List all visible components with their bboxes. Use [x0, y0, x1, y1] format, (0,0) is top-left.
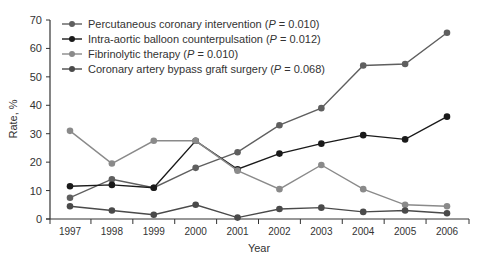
data-point	[234, 167, 241, 174]
data-point	[276, 122, 283, 129]
data-point	[402, 201, 409, 208]
data-point	[360, 132, 367, 139]
data-point	[402, 61, 409, 68]
data-point	[318, 204, 325, 211]
data-point	[150, 211, 157, 218]
data-point	[109, 182, 116, 189]
y-tick-label: 70	[30, 14, 42, 26]
x-tick-label: 2004	[352, 226, 375, 237]
legend-item: Percutaneous coronary intervention (P = …	[62, 18, 319, 30]
data-point	[276, 206, 283, 213]
line-chart: 0102030405060701997199819992000200120022…	[0, 0, 483, 270]
y-tick-label: 60	[30, 42, 42, 54]
data-point	[109, 207, 116, 214]
x-tick-label: 2006	[436, 226, 459, 237]
data-point	[150, 138, 157, 145]
data-point	[67, 128, 74, 135]
x-tick-label: 2001	[226, 226, 249, 237]
data-point	[444, 113, 451, 120]
y-axis-label: Rate, %	[7, 99, 19, 138]
x-tick-label: 2000	[185, 226, 208, 237]
legend: Percutaneous coronary intervention (P = …	[62, 18, 325, 75]
legend-label: Coronary artery bypass graft surgery (P …	[88, 63, 325, 75]
data-point	[444, 203, 451, 210]
data-point	[402, 207, 409, 214]
y-tick-label: 20	[30, 156, 42, 168]
data-point	[276, 186, 283, 193]
data-point	[318, 162, 325, 169]
legend-item: Fibrinolytic therapy (P = 0.010)	[62, 48, 238, 60]
data-point	[67, 203, 74, 210]
data-point	[109, 160, 116, 167]
y-tick-label: 30	[30, 128, 42, 140]
x-axis-label: Year	[248, 242, 271, 254]
x-tick-label: 2003	[310, 226, 333, 237]
data-point	[402, 136, 409, 143]
y-tick-label: 40	[30, 99, 42, 111]
data-point	[67, 183, 74, 190]
y-tick-label: 0	[36, 213, 42, 225]
data-point	[318, 105, 325, 112]
legend-label: Percutaneous coronary intervention (P = …	[88, 18, 319, 30]
data-point	[444, 210, 451, 217]
y-tick-label: 50	[30, 71, 42, 83]
data-point	[192, 138, 199, 145]
data-point	[150, 184, 157, 191]
legend-item: Intra-aortic balloon counterpulsation (P…	[62, 33, 321, 45]
legend-label: Intra-aortic balloon counterpulsation (P…	[88, 33, 321, 45]
series-line	[67, 128, 451, 210]
x-tick-label: 2005	[394, 226, 417, 237]
x-tick-label: 1999	[143, 226, 166, 237]
data-point	[360, 62, 367, 69]
legend-item: Coronary artery bypass graft surgery (P …	[62, 63, 325, 75]
x-tick-label: 2002	[268, 226, 291, 237]
legend-label: Fibrinolytic therapy (P = 0.010)	[88, 48, 238, 60]
data-point	[276, 150, 283, 157]
data-point	[318, 140, 325, 147]
data-point	[360, 209, 367, 216]
data-point	[67, 194, 74, 201]
series-line	[67, 201, 451, 220]
x-tick-label: 1998	[101, 226, 124, 237]
data-point	[109, 176, 116, 183]
data-point	[360, 186, 367, 193]
data-point	[192, 165, 199, 172]
y-tick-label: 10	[30, 185, 42, 197]
data-point	[192, 201, 199, 208]
data-point	[234, 149, 241, 156]
data-point	[234, 214, 241, 221]
x-tick-label: 1997	[59, 226, 82, 237]
data-point	[444, 29, 451, 36]
